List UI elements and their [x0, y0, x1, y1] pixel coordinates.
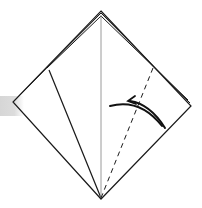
origami-diagram	[0, 0, 202, 208]
inner-flap-edge	[49, 70, 101, 198]
fold-arrow-icon	[110, 96, 165, 128]
outer-diamond	[13, 11, 191, 199]
valley-fold-line	[101, 68, 153, 198]
fold-diagram-svg	[0, 0, 202, 208]
layer-edges	[15, 13, 190, 103]
